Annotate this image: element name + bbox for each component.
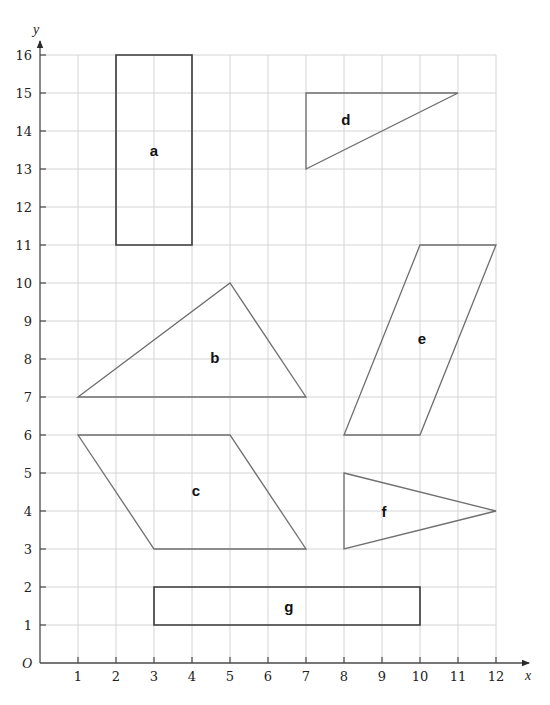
y-tick-label: 5 (24, 466, 32, 481)
shape-label: g (284, 598, 293, 615)
shape-label: e (418, 330, 426, 347)
axes: 123456789101112 12345678910111213141516 … (15, 22, 532, 684)
x-tick-label: 1 (74, 669, 82, 684)
y-tick-label: 9 (24, 314, 32, 329)
x-tick-label: 4 (188, 669, 196, 684)
shape-g: g (154, 587, 420, 625)
y-tick-label: 11 (15, 238, 32, 253)
y-tick-label: 12 (15, 200, 32, 215)
shape-label: b (210, 349, 219, 366)
grid-lines (40, 55, 496, 663)
x-tick-label: 2 (112, 669, 120, 684)
y-tick-label: 14 (15, 124, 32, 139)
x-tick-label: 3 (150, 669, 158, 684)
y-tick-label: 7 (24, 390, 32, 405)
y-tick-label: 13 (15, 162, 32, 177)
x-tick-label: 10 (412, 669, 429, 684)
y-tick-label: 1 (24, 618, 32, 633)
y-tick-label: 3 (24, 542, 32, 557)
y-tick-label: 16 (15, 48, 32, 63)
shapes: abcdefg (78, 55, 496, 625)
y-tick-label: 15 (15, 86, 32, 101)
shape-label: d (341, 111, 350, 128)
y-tick-label: 4 (24, 504, 32, 519)
x-tick-label: 11 (450, 669, 467, 684)
x-tick-label: 9 (378, 669, 386, 684)
x-axis-ticks: 123456789101112 (74, 657, 504, 684)
x-tick-label: 6 (264, 669, 272, 684)
x-tick-label: 5 (226, 669, 234, 684)
shape-label: c (192, 482, 200, 499)
x-tick-label: 8 (340, 669, 348, 684)
y-tick-label: 2 (24, 580, 32, 595)
y-axis-ticks: 12345678910111213141516 (15, 48, 46, 633)
coordinate-grid-diagram: 123456789101112 12345678910111213141516 … (0, 0, 550, 705)
y-tick-label: 10 (15, 276, 32, 291)
y-tick-label: 6 (24, 428, 32, 443)
y-tick-label: 8 (24, 352, 32, 367)
shape-label: a (150, 142, 159, 159)
y-axis-label: y (31, 22, 40, 37)
x-tick-label: 12 (488, 669, 505, 684)
x-axis-label: x (524, 668, 532, 683)
x-tick-label: 7 (302, 669, 310, 684)
origin-label: O (22, 656, 32, 671)
